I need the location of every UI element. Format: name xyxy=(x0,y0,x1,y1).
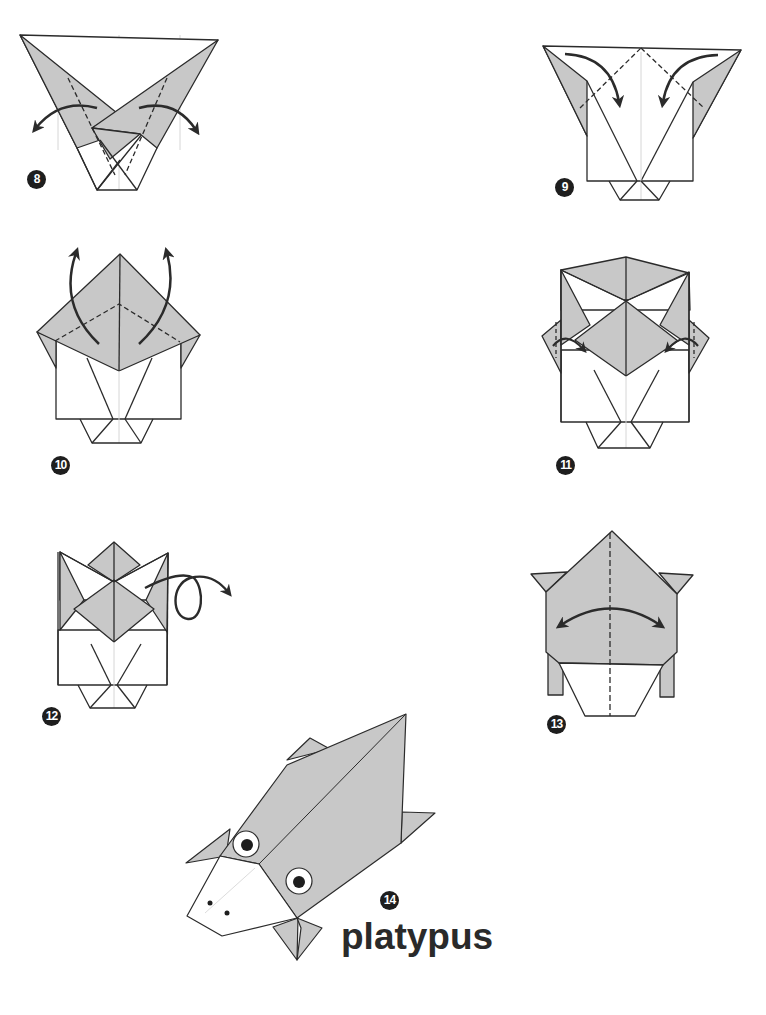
step-11-diagram xyxy=(542,257,709,448)
step-12-diagram xyxy=(58,542,228,708)
step-12-number-badge: 12 xyxy=(42,707,61,726)
step-14-number-badge: 14 xyxy=(380,891,399,910)
step-11-number-badge: 11 xyxy=(556,456,575,475)
step-13-number-badge: 13 xyxy=(547,715,566,734)
model-title: platypus xyxy=(341,917,493,957)
step-9-number-badge: 9 xyxy=(555,178,574,197)
nostril-icon xyxy=(225,911,230,916)
step-10-diagram xyxy=(37,253,200,443)
nostril-icon xyxy=(208,901,213,906)
step-8-diagram xyxy=(20,35,218,190)
step-10-number-badge: 10 xyxy=(51,456,70,475)
step-13-diagram xyxy=(531,531,693,716)
origami-diagram xyxy=(0,0,766,1015)
step-9-diagram xyxy=(543,46,741,200)
step-8-number-badge: 8 xyxy=(27,170,46,189)
